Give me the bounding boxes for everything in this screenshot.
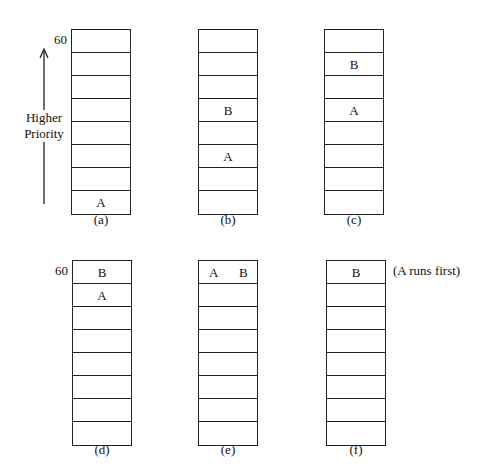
slot (73, 330, 131, 353)
slot (72, 122, 130, 145)
slot (73, 353, 131, 376)
queue-panel-e: A B (198, 260, 258, 446)
a-runs-first-note: (A runs first) (393, 263, 460, 279)
slot (199, 53, 257, 76)
slot: A (72, 191, 130, 214)
slot (199, 30, 257, 53)
caption-c: (c) (324, 212, 384, 228)
slot (327, 284, 385, 307)
process-a: A (209, 265, 218, 281)
process-a: A (325, 103, 383, 119)
slot (325, 122, 383, 145)
slot (72, 145, 130, 168)
slot: A (199, 145, 257, 168)
axis-label-line1: Higher (18, 110, 70, 126)
slot (199, 122, 257, 145)
process-a: A (73, 288, 131, 304)
caption-f: (f) (326, 442, 386, 458)
slot (72, 53, 130, 76)
process-b: B (199, 103, 257, 119)
slot: B (325, 53, 383, 76)
slot (325, 168, 383, 191)
caption-e: (e) (198, 442, 258, 458)
axis-label-line2: Priority (18, 126, 70, 142)
slot: B (199, 99, 257, 122)
slot (199, 353, 257, 376)
slot (327, 353, 385, 376)
slot (325, 145, 383, 168)
slot (72, 168, 130, 191)
caption-a: (a) (71, 212, 131, 228)
queue-panel-d: B A (72, 260, 132, 446)
slot (199, 76, 257, 99)
slot: A (325, 99, 383, 122)
slot (325, 76, 383, 99)
slot (72, 30, 130, 53)
slot (327, 399, 385, 422)
process-a: A (72, 195, 130, 211)
process-a: A (199, 149, 257, 165)
process-b: B (73, 265, 131, 281)
slot (72, 99, 130, 122)
slot (73, 307, 131, 330)
process-b: B (327, 265, 385, 281)
slot: A B (199, 261, 257, 284)
slot (327, 330, 385, 353)
slot (199, 307, 257, 330)
caption-d: (d) (72, 442, 132, 458)
priority-60-label-bottom: 60 (55, 263, 68, 279)
slot (73, 376, 131, 399)
slot (72, 76, 130, 99)
slot (199, 191, 257, 214)
slot (325, 30, 383, 53)
axis-label: Higher Priority (18, 110, 70, 142)
slot: B (327, 261, 385, 284)
queue-panel-f: B (326, 260, 386, 446)
slot (199, 399, 257, 422)
slot (327, 307, 385, 330)
slot (73, 399, 131, 422)
slot (199, 376, 257, 399)
process-b: B (239, 265, 248, 281)
queue-panel-a: A (71, 29, 131, 215)
slot: B (73, 261, 131, 284)
slot (327, 376, 385, 399)
slot (325, 191, 383, 214)
slot (199, 284, 257, 307)
process-b: B (325, 57, 383, 73)
queue-panel-c: B A (324, 29, 384, 215)
queue-panel-b: B A (198, 29, 258, 215)
slot (199, 330, 257, 353)
slot (199, 168, 257, 191)
caption-b: (b) (198, 212, 258, 228)
slot: A (73, 284, 131, 307)
priority-60-label-top: 60 (54, 32, 67, 48)
